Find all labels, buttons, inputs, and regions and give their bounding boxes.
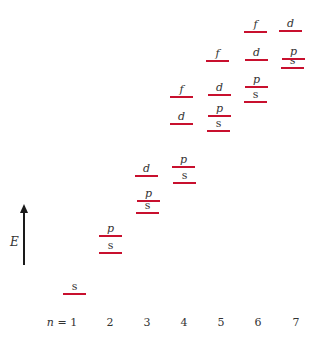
orbital-label-5f: f xyxy=(206,48,229,59)
energy-level-line-2p xyxy=(99,235,122,237)
orbital-label-4s: s xyxy=(173,170,196,181)
energy-level-line-5p xyxy=(208,115,231,117)
energy-level-line-6s xyxy=(244,101,267,103)
n-label-5: 5 xyxy=(218,317,225,329)
n-value: 4 xyxy=(181,316,188,329)
energy-level-line-4s xyxy=(173,182,196,184)
energy-level-line-6d xyxy=(245,59,268,61)
n-value: 3 xyxy=(144,316,151,329)
n-value: 2 xyxy=(107,316,114,329)
orbital-label-1s: s xyxy=(63,281,86,292)
n-value: 6 xyxy=(255,316,262,329)
n-value: 5 xyxy=(218,316,225,329)
orbital-label-5p: p xyxy=(208,103,231,114)
energy-level-line-7p xyxy=(282,58,305,60)
energy-level-line-3s xyxy=(136,212,159,214)
energy-level-line-3d xyxy=(135,175,158,177)
orbital-label-5s: s xyxy=(207,118,230,129)
energy-level-line-4d xyxy=(170,123,193,125)
n-label-6: 6 xyxy=(255,317,262,329)
orbital-label-6s: s xyxy=(244,89,267,100)
orbital-label-6f: f xyxy=(244,19,267,30)
energy-level-line-1s xyxy=(63,293,86,295)
orbital-label-4p: p xyxy=(172,154,195,165)
energy-axis-arrow xyxy=(23,206,25,265)
n-value: 7 xyxy=(293,316,300,329)
orbital-label-6d: d xyxy=(245,47,268,58)
energy-level-line-5s xyxy=(207,130,230,132)
equals-sign: = xyxy=(54,316,70,329)
orbital-label-2p: p xyxy=(99,223,122,234)
energy-level-line-2s xyxy=(99,252,122,254)
n-label-4: 4 xyxy=(181,317,188,329)
n-label-7: 7 xyxy=(293,317,300,329)
energy-level-line-5f xyxy=(206,60,229,62)
orbital-label-6p: p xyxy=(245,74,268,85)
n-label-2: 2 xyxy=(107,317,114,329)
orbital-label-7d: d xyxy=(279,18,302,29)
energy-level-line-6p xyxy=(245,86,268,88)
energy-level-line-5d xyxy=(208,94,231,96)
energy-level-line-4p xyxy=(172,166,195,168)
orbital-label-2s: s xyxy=(99,240,122,251)
orbital-label-5d: d xyxy=(208,82,231,93)
orbital-label-3d: d xyxy=(135,163,158,174)
n-label-3: 3 xyxy=(144,317,151,329)
orbital-label-4f: f xyxy=(170,84,193,95)
energy-level-line-6f xyxy=(244,31,267,33)
n-value: 1 xyxy=(70,316,77,329)
energy-level-line-7s xyxy=(281,67,304,69)
energy-level-line-7d xyxy=(279,30,302,32)
energy-level-line-4f xyxy=(170,96,193,98)
n-label-1: n = 1 xyxy=(47,317,77,329)
energy-axis-label: E xyxy=(10,235,19,249)
orbital-label-7p: p xyxy=(282,46,305,57)
orbital-energy-diagram: sspspdspdfspdfspdfspd n = 1234567 E xyxy=(0,0,321,340)
orbital-label-4d: d xyxy=(170,111,193,122)
energy-level-line-3p xyxy=(137,200,160,202)
orbital-label-3p: p xyxy=(137,188,160,199)
